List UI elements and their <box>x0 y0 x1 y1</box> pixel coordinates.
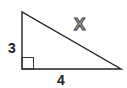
triangle-diagram: 3 4 X <box>0 0 127 88</box>
right-angle-marker <box>22 58 34 70</box>
hypotenuse-label: X <box>74 15 86 34</box>
right-triangle <box>22 12 121 69</box>
horizontal-leg-label: 4 <box>57 72 65 88</box>
vertical-leg-label: 3 <box>8 40 16 56</box>
